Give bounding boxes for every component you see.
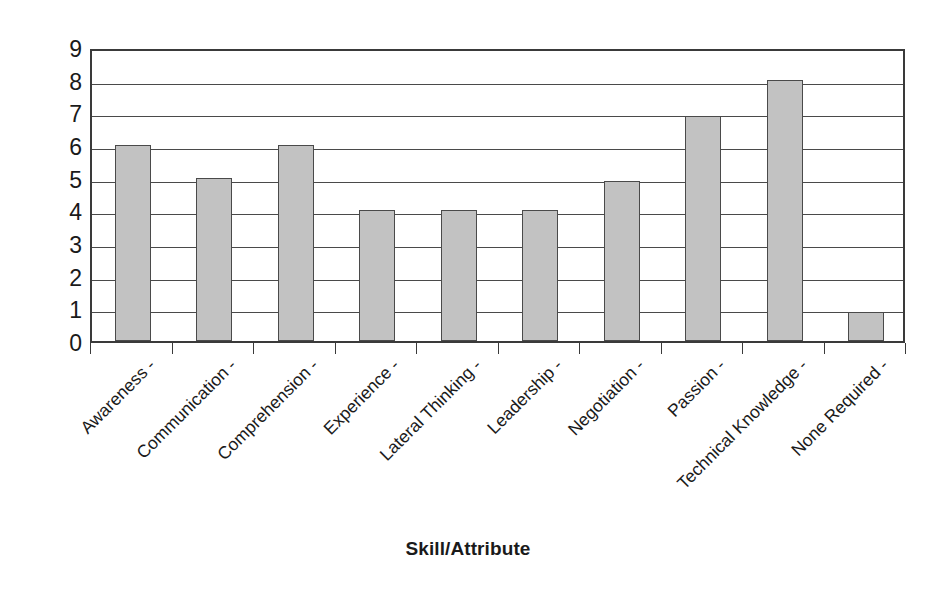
bar-chart: Frequency of Mention 0123456789 Awarenes… <box>0 0 936 598</box>
bar <box>522 210 558 341</box>
bar <box>441 210 477 341</box>
bars-group <box>92 51 903 341</box>
y-axis-tick-label: 3 <box>54 234 82 257</box>
bar <box>848 312 884 341</box>
bar <box>115 145 151 341</box>
plot-area <box>90 49 905 343</box>
x-axis-category-label: None Required - <box>595 355 893 598</box>
y-axis-tick-label: 4 <box>54 201 82 224</box>
bar <box>604 181 640 341</box>
y-axis-tick-label: 8 <box>54 71 82 94</box>
y-axis-tick-label: 1 <box>54 299 82 322</box>
y-axis-tick-label: 7 <box>54 103 82 126</box>
bar <box>685 116 721 341</box>
y-axis-tick-label: 6 <box>54 136 82 159</box>
bar <box>196 178 232 341</box>
y-axis-tick-label: 2 <box>54 267 82 290</box>
bar <box>767 80 803 341</box>
x-axis-title: Skill/Attribute <box>0 538 936 560</box>
bar <box>278 145 314 341</box>
y-axis-tick-label: 9 <box>54 38 82 61</box>
bar <box>359 210 395 341</box>
x-axis-category-labels: Awareness -Communication -Comprehension … <box>0 343 936 533</box>
y-axis-tick-label: 5 <box>54 169 82 192</box>
